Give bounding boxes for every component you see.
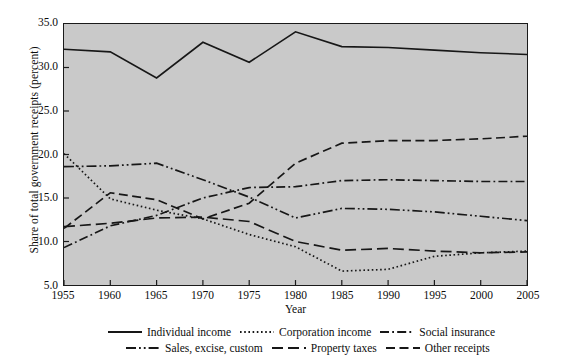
legend-swatch-dotted [240, 327, 274, 337]
x-tick-label: 2005 [498, 289, 558, 302]
plot-lines [64, 24, 527, 285]
legend-label: Social insurance [419, 326, 495, 338]
legend-label: Individual income [147, 326, 231, 338]
legend-entry: Social insurance [380, 326, 495, 338]
y-axis-tick-labels: 5.010.015.020.025.030.035.0 [10, 0, 58, 362]
legend-entry: Corporation income [240, 326, 371, 338]
chart-legend: Individual incomeCorporation incomeSocia… [108, 324, 528, 356]
y-tick-label: 20.0 [14, 149, 58, 161]
legend-label: Property taxes [311, 342, 377, 354]
legend-entry: Other receipts [386, 342, 490, 354]
legend-swatch-solid [108, 327, 142, 337]
legend-row: Sales, excise, customProperty taxesOther… [108, 340, 528, 356]
series-line-individual-income [64, 32, 527, 78]
legend-label: Corporation income [279, 326, 371, 338]
legend-label: Sales, excise, custom [165, 342, 263, 354]
legend-swatch-dash [386, 343, 420, 353]
legend-swatch-dash-dot-dot [126, 343, 160, 353]
legend-swatch-dash-dot [380, 327, 414, 337]
y-tick-label: 35.0 [14, 17, 58, 29]
y-tick-label: 10.0 [14, 236, 58, 248]
y-tick-label: 30.0 [14, 61, 58, 73]
x-axis-title: Year [63, 303, 528, 315]
legend-entry: Individual income [108, 326, 231, 338]
series-line-property-taxes [64, 217, 527, 253]
series-line-sales-excise-custom [64, 163, 527, 220]
y-tick-label: 15.0 [14, 192, 58, 204]
plot-area [63, 23, 528, 286]
y-tick-label: 25.0 [14, 105, 58, 117]
legend-row: Individual incomeCorporation incomeSocia… [108, 324, 528, 340]
legend-entry: Property taxes [272, 342, 377, 354]
legend-entry: Sales, excise, custom [126, 342, 263, 354]
chart-figure: Share of total government receipts (perc… [0, 0, 563, 362]
legend-swatch-long-dash [272, 343, 306, 353]
series-line-corporation-income [64, 154, 527, 271]
legend-label: Other receipts [425, 342, 490, 354]
